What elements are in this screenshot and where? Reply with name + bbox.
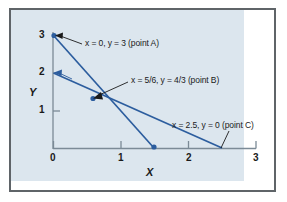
x-tick-label-2: 2 (186, 152, 192, 163)
y-tick-label-1: 1 (39, 104, 45, 115)
x-tick-label-0: 0 (50, 152, 56, 163)
data-line-1 (54, 36, 155, 149)
annotation-point-b: x = 5/6, y = 4/3 (point B) (131, 75, 219, 85)
x-tick-label-1: 1 (118, 152, 124, 163)
y-tick-label-3: 3 (39, 29, 45, 40)
y-axis-title: Y (29, 86, 36, 98)
x-tick-label-3: 3 (253, 152, 259, 163)
figure-container: 3 2 1 0 1 2 3 Y X x = 0, y = 3 (point A)… (0, 0, 287, 202)
leader-line-point-c (221, 131, 229, 148)
x-axis-title: X (146, 166, 153, 178)
annotation-point-a: x = 0, y = 3 (point A) (85, 38, 159, 48)
y-tick-label-2: 2 (39, 66, 45, 77)
marker-x-intercept-line1 (151, 144, 156, 149)
annotation-point-c: x = 2.5, y = 0 (point C) (172, 120, 254, 130)
